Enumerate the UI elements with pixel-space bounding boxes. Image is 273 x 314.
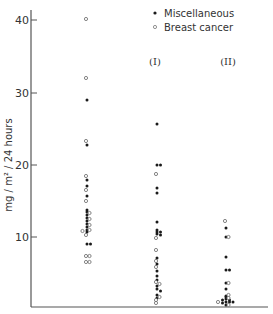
point-miscellaneous [225, 288, 228, 291]
point-breast-cancer [84, 76, 87, 79]
point-miscellaneous [232, 301, 235, 304]
point-miscellaneous [225, 301, 228, 304]
point-miscellaneous [221, 299, 224, 302]
point-miscellaneous [156, 221, 159, 224]
tick-label-20: 20 [15, 159, 29, 172]
point-breast-cancer [88, 254, 91, 257]
legend-label-breast-cancer: Breast cancer [164, 22, 234, 33]
point-breast-cancer [154, 265, 157, 268]
point-breast-cancer [88, 228, 91, 231]
point-breast-cancer [158, 282, 161, 285]
point-breast-cancer [154, 280, 157, 283]
point-breast-cancer [84, 260, 87, 263]
point-miscellaneous [156, 123, 159, 126]
point-miscellaneous [156, 288, 159, 291]
point-breast-cancer [227, 281, 230, 284]
point-miscellaneous [86, 195, 89, 198]
point-breast-cancer [84, 254, 87, 257]
tick-label-30: 30 [15, 87, 29, 100]
point-breast-cancer [84, 199, 87, 202]
legend-open-marker-icon [153, 25, 156, 28]
point-miscellaneous [156, 192, 159, 195]
tick-label-10: 10 [15, 231, 29, 244]
point-breast-cancer [84, 139, 87, 142]
scatter-chart: 40 30 20 10 mg / m² / 24 hours Miscellan… [0, 0, 273, 314]
point-breast-cancer [84, 17, 87, 20]
point-miscellaneous [156, 233, 159, 236]
point-miscellaneous [159, 290, 162, 293]
point-breast-cancer [227, 303, 230, 306]
point-breast-cancer [158, 295, 161, 298]
legend-label-miscellaneous: Miscellaneous [164, 8, 234, 19]
point-miscellaneous [159, 231, 162, 234]
point-breast-cancer [88, 211, 91, 214]
group-label-2: (II) [220, 56, 236, 67]
point-breast-cancer [81, 229, 84, 232]
point-breast-cancer [154, 172, 157, 175]
point-miscellaneous [86, 185, 89, 188]
point-breast-cancer [84, 174, 87, 177]
point-miscellaneous [159, 164, 162, 167]
point-breast-cancer [227, 296, 230, 299]
point-breast-cancer [223, 219, 226, 222]
point-breast-cancer [154, 259, 157, 262]
point-miscellaneous [86, 99, 89, 102]
y-axis-title: mg / m² / 24 hours [3, 118, 14, 211]
point-miscellaneous [156, 187, 159, 190]
legend: Miscellaneous Breast cancer [153, 8, 234, 33]
point-breast-cancer [88, 223, 91, 226]
legend-filled-marker-icon [153, 11, 156, 14]
point-breast-cancer [227, 235, 230, 238]
point-miscellaneous [225, 269, 228, 272]
tick-label-40: 40 [15, 14, 29, 27]
point-breast-cancer [216, 300, 219, 303]
point-miscellaneous [86, 243, 89, 246]
point-miscellaneous [156, 275, 159, 278]
point-miscellaneous [221, 302, 224, 305]
point-breast-cancer [154, 248, 157, 251]
point-breast-cancer [154, 301, 157, 304]
point-breast-cancer [88, 260, 91, 263]
group-label-1: (I) [149, 56, 161, 67]
point-miscellaneous [86, 179, 89, 182]
point-miscellaneous [225, 227, 228, 230]
point-miscellaneous [228, 269, 231, 272]
point-miscellaneous [86, 144, 89, 147]
y-ticks: 40 30 20 10 [15, 14, 37, 244]
point-miscellaneous [156, 270, 159, 273]
point-miscellaneous [159, 234, 162, 237]
point-breast-cancer [154, 236, 157, 239]
point-miscellaneous [89, 243, 92, 246]
point-breast-cancer [84, 233, 87, 236]
point-breast-cancer [88, 217, 91, 220]
point-miscellaneous [156, 164, 159, 167]
point-breast-cancer [84, 188, 87, 191]
point-miscellaneous [225, 256, 228, 259]
